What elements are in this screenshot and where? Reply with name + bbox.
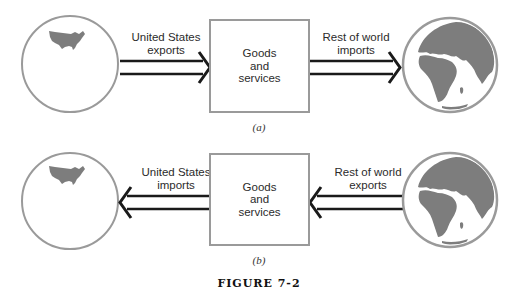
box-text-line2: and	[238, 60, 280, 73]
arrow-label-line1: Rest of world	[322, 166, 414, 179]
box-text-line2: and	[238, 193, 280, 206]
rest-of-world-imports-label: Rest of world imports	[310, 31, 402, 57]
box-text-line1: Goods	[238, 47, 280, 60]
box-text-line3: services	[238, 72, 280, 85]
arrow-label-line2: imports	[310, 44, 402, 57]
goods-services-box: Goods and services	[209, 153, 310, 246]
panel-label-b: (b)	[239, 254, 279, 266]
arrow-label-line2: exports	[322, 179, 414, 192]
figure-caption: FIGURE 7-2	[189, 277, 329, 290]
arrow-label-line2: exports	[118, 44, 214, 57]
world-globe-icon	[403, 153, 497, 247]
panel-label-a: (a)	[239, 121, 279, 133]
arrow-label-line1: Rest of world	[310, 31, 402, 44]
rest-of-world-exports-label: Rest of world exports	[322, 166, 414, 192]
goods-services-box: Goods and services	[209, 19, 310, 113]
us-globe-icon	[22, 16, 118, 112]
arrow-label-line1: United States	[118, 31, 214, 44]
us-globe-icon	[22, 153, 118, 249]
box-text-line3: services	[238, 206, 280, 219]
world-globe-icon	[403, 18, 497, 112]
box-text-line1: Goods	[238, 181, 280, 194]
us-exports-label: United States exports	[118, 31, 214, 57]
